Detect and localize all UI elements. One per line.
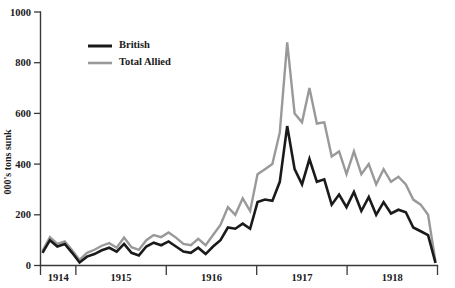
line-chart: 000's tons sunk 02004006008001000 191419…	[0, 0, 455, 288]
y-axis-title: 000's tons sunk	[2, 129, 13, 194]
y-tick-label-200: 200	[15, 209, 31, 220]
series-line-total-allied	[43, 42, 436, 261]
x-tick-label-1917: 1917	[291, 272, 312, 283]
x-tick-group: 19141915191619171918	[41, 266, 438, 284]
series-line-british	[43, 126, 436, 263]
y-tick-label-400: 400	[15, 159, 31, 170]
y-tick-label-600: 600	[15, 108, 31, 119]
y-tick-label-1000: 1000	[10, 7, 31, 18]
chart-container: 000's tons sunk 02004006008001000 191419…	[0, 0, 455, 288]
x-tick-label-1918: 1918	[382, 272, 403, 283]
x-tick-label-1914: 1914	[48, 272, 70, 283]
y-tick-label-800: 800	[15, 57, 31, 68]
legend-label-total-allied: Total Allied	[119, 56, 171, 67]
x-tick-label-1916: 1916	[201, 272, 222, 283]
y-tick-label-0: 0	[26, 260, 31, 271]
series-layer	[43, 42, 436, 263]
x-tick-label-1915: 1915	[111, 272, 132, 283]
y-tick-group: 02004006008001000	[10, 7, 41, 272]
legend-label-british: British	[119, 39, 150, 50]
chart-legend: BritishTotal Allied	[88, 39, 171, 67]
